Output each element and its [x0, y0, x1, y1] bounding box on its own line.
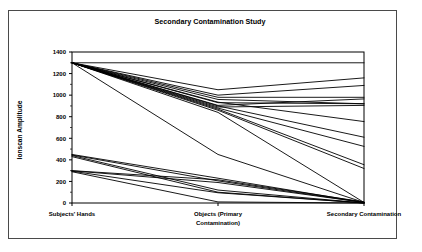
y-axis-title: Ionscan Amplitude [16, 100, 24, 159]
data-series-line [72, 63, 364, 203]
y-axis-tick-label: 1200 [53, 71, 67, 77]
y-axis: 0200400600800100012001400 [53, 49, 72, 206]
y-axis-tick-label: 0 [63, 200, 67, 206]
data-series-line [72, 63, 364, 98]
series-lines-group [72, 63, 364, 203]
y-axis-tick-label: 1400 [53, 49, 67, 55]
y-axis-tick-label: 400 [56, 157, 67, 163]
y-axis-tick-label: 1000 [53, 92, 67, 98]
x-axis-category-label: Contamination) [196, 220, 240, 226]
y-axis-tick-label: 600 [56, 136, 67, 142]
x-axis-category-label: Objects (Primary [194, 211, 243, 217]
x-axis-category-labels: Subjects' HandsObjects (PrimaryContamina… [49, 211, 402, 226]
chart-page: Secondary Contamination Study Ionscan Am… [0, 0, 422, 252]
x-axis-category-label: Subjects' Hands [49, 211, 96, 217]
data-series-line [72, 63, 364, 107]
y-axis-tick-label: 800 [56, 114, 67, 120]
x-axis-category-label: Secondary Contamination [327, 211, 402, 217]
y-axis-tick-label: 200 [56, 179, 67, 185]
data-series-line [72, 172, 364, 203]
contamination-line-chart: Secondary Contamination Study Ionscan Am… [0, 0, 422, 252]
data-series-line [72, 63, 364, 203]
chart-title: Secondary Contamination Study [154, 17, 265, 26]
